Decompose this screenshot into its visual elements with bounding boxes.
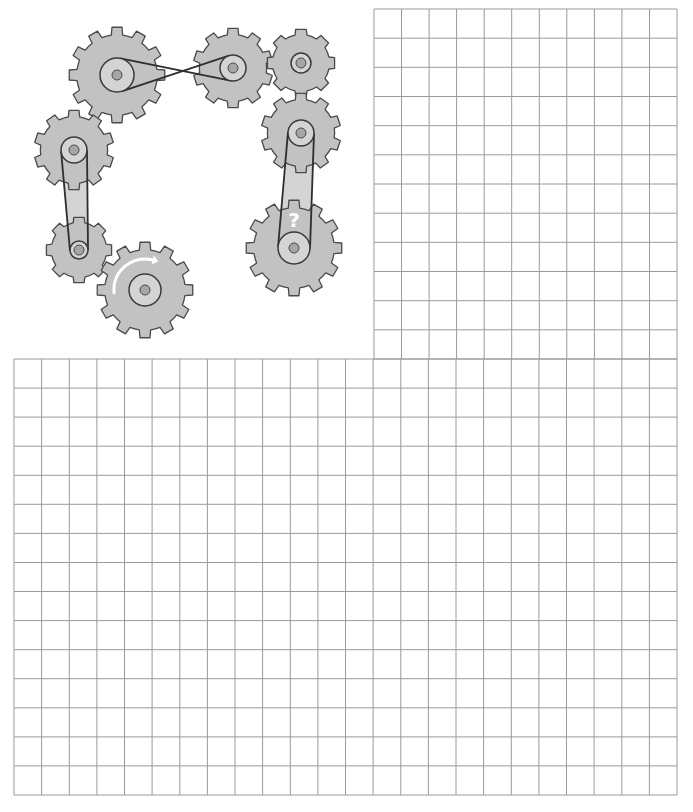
- gear-2-pulley: [220, 55, 246, 81]
- gear-7-pulley: [70, 241, 88, 259]
- axle-hub: [289, 243, 299, 253]
- gear-8-pulley: [129, 274, 161, 306]
- axle-hub: [228, 63, 238, 73]
- axle-hub: [69, 145, 79, 155]
- axle-hub: [140, 285, 150, 295]
- gear-5-pulley: [278, 232, 310, 264]
- question-mark-label: ?: [288, 208, 300, 232]
- axle-hub: [112, 70, 122, 80]
- gear-3-pulley: [291, 53, 311, 73]
- belt-strand: [87, 150, 88, 250]
- axle-hub: [296, 128, 306, 138]
- gear-1-pulley: [100, 58, 134, 92]
- axle-hub: [74, 245, 84, 255]
- axle-hub: [296, 58, 306, 68]
- gear-puzzle-diagram: ?: [0, 0, 693, 812]
- answer-grid: [14, 9, 677, 795]
- gear-6-pulley: [61, 137, 87, 163]
- gear-4-pulley: [288, 120, 314, 146]
